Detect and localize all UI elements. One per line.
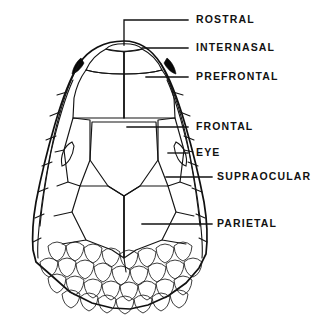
label-supraocular: SUPRAOCULAR — [217, 170, 311, 182]
snake-head-scale-diagram: ROSTRAL INTERNASAL PREFRONTAL FRONTAL EY… — [0, 0, 326, 330]
label-internasal: INTERNASAL — [196, 41, 275, 53]
labels-group: ROSTRAL INTERNASAL PREFRONTAL FRONTAL EY… — [196, 13, 311, 229]
label-parietal: PARIETAL — [217, 217, 277, 229]
label-prefrontal: PREFRONTAL — [196, 70, 278, 82]
diagram-canvas: ROSTRAL INTERNASAL PREFRONTAL FRONTAL EY… — [0, 0, 326, 330]
leader-rostral — [124, 20, 188, 45]
label-frontal: FRONTAL — [196, 120, 253, 132]
label-rostral: ROSTRAL — [196, 13, 255, 25]
label-eye: EYE — [196, 146, 220, 158]
